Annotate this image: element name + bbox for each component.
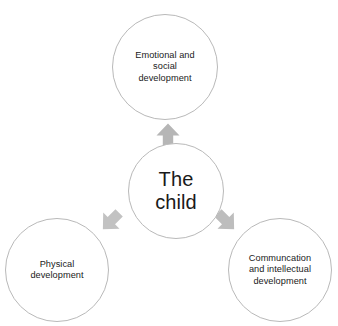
child-development-diagram: Emotional and social development Physica… bbox=[0, 0, 338, 326]
node-label-emotional-and-social-development: Emotional and social development bbox=[127, 50, 202, 85]
node-communication-and-intellectual-development: Communcation and intellectual developmen… bbox=[228, 218, 332, 322]
node-emotional-and-social-development: Emotional and social development bbox=[112, 14, 218, 120]
node-physical-development: Physical development bbox=[5, 218, 109, 322]
node-label-physical-development: Physical development bbox=[22, 259, 91, 282]
node-the-child: The child bbox=[128, 143, 224, 239]
arrow-down-left-to-physical-icon bbox=[95, 205, 128, 238]
node-label-the-child: The child bbox=[151, 168, 201, 214]
node-label-communication-and-intellectual-development: Communcation and intellectual developmen… bbox=[241, 253, 319, 288]
